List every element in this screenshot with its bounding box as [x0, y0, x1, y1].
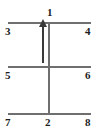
label-top-left: 3 — [5, 26, 11, 37]
label-middle-right: 6 — [85, 70, 91, 81]
diagram-canvas: 1 3 4 5 6 7 2 8 — [0, 0, 99, 138]
label-bottom-right: 8 — [85, 117, 91, 128]
label-top-right: 4 — [85, 26, 91, 37]
label-bottom-left: 7 — [5, 117, 11, 128]
label-middle-left: 5 — [5, 70, 11, 81]
vertical-connector-line — [48, 22, 50, 114]
label-top-center: 1 — [47, 7, 53, 18]
transition-arrow-shaft — [42, 26, 44, 63]
transition-arrow-head-up-icon — [39, 19, 47, 27]
label-bottom-center: 2 — [45, 117, 51, 128]
